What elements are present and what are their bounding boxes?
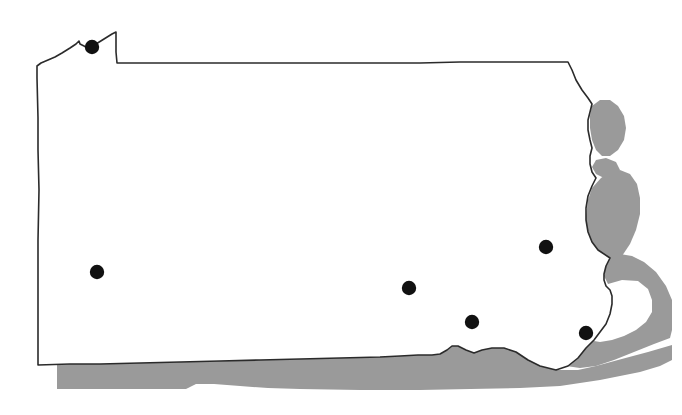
city-marker-harrisburg: Harrisburg: [402, 281, 416, 295]
state-outline-layer: [37, 32, 612, 370]
city-marker-scranton-allentown: Scranton / Allentown: [539, 240, 553, 254]
pennsylvania-map: EriePittsburghHarrisburgScranton / Allen…: [0, 0, 682, 415]
pennsylvania-outline: [37, 32, 612, 370]
city-marker-pittsburgh: Pittsburgh: [90, 265, 104, 279]
city-marker-erie: Erie: [85, 40, 99, 54]
city-marker-philadelphia: Philadelphia: [579, 326, 593, 340]
delaware-river-band-upper: [590, 100, 626, 156]
map-container: EriePittsburghHarrisburgScranton / Allen…: [0, 0, 682, 415]
city-marker-lancaster-york: Lancaster / York: [465, 315, 479, 329]
